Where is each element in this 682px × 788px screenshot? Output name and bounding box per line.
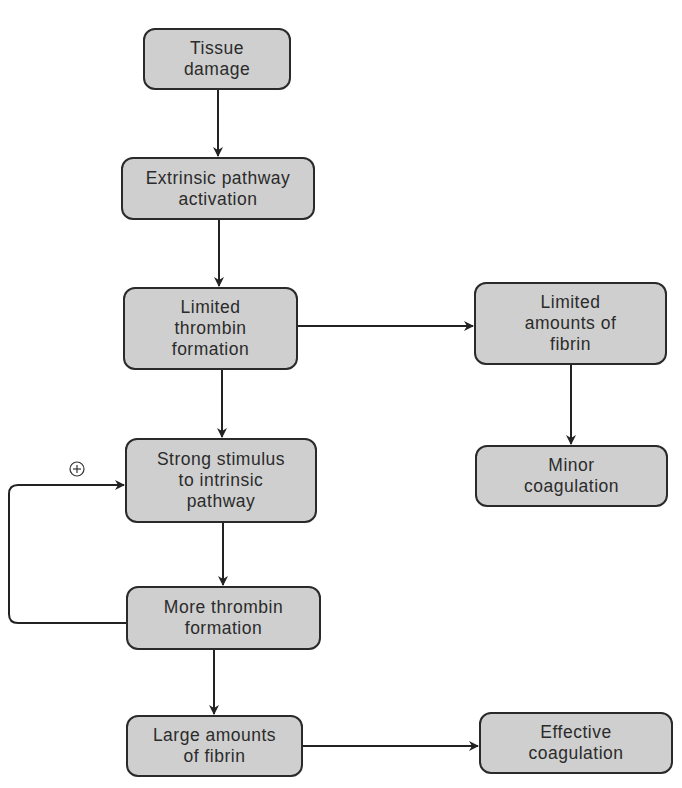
arrow-feedback-loop (9, 485, 126, 623)
node-label: Effective coagulation (528, 722, 623, 764)
node-minor-coagulation: Minor coagulation (475, 445, 668, 507)
node-effective-coagulation: Effective coagulation (479, 712, 673, 774)
node-extrinsic-pathway: Extrinsic pathway activation (121, 157, 315, 220)
node-tissue-damage: Tissue damage (143, 28, 291, 90)
node-label: More thrombin formation (164, 597, 283, 639)
node-label: Extrinsic pathway activation (146, 168, 291, 210)
node-large-fibrin: Large amounts of fibrin (126, 715, 303, 777)
node-label: Minor coagulation (524, 455, 619, 497)
node-more-thrombin: More thrombin formation (126, 586, 321, 650)
node-label: Large amounts of fibrin (153, 725, 276, 767)
node-label: Limited thrombin formation (172, 297, 249, 360)
node-limited-thrombin: Limited thrombin formation (123, 287, 298, 370)
connector-lines (0, 0, 682, 788)
node-strong-stimulus: Strong stimulus to intrinsic pathway (125, 438, 317, 523)
node-label: Strong stimulus to intrinsic pathway (157, 449, 285, 512)
node-label: Limited amounts of fibrin (525, 292, 617, 355)
node-label: Tissue damage (184, 38, 250, 80)
node-limited-fibrin: Limited amounts of fibrin (474, 282, 667, 365)
